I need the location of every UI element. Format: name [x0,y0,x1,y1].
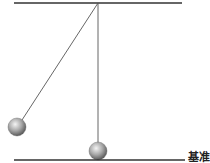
rest-ball [89,142,107,160]
pendulum-diagram [0,0,210,163]
displaced-string [22,3,98,120]
displaced-ball [8,118,26,136]
baseline-label: 基准 [188,148,210,163]
